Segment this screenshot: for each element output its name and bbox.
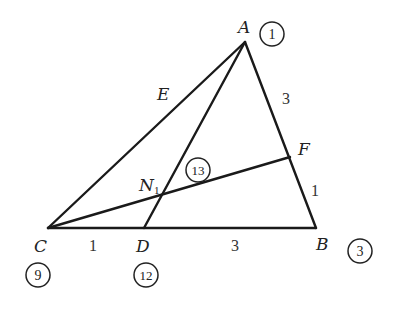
label-B: B [315, 234, 329, 254]
length-CD: 1 [89, 237, 97, 254]
length-AF: 3 [282, 90, 290, 107]
segment-AB [245, 42, 316, 228]
label-C: C [34, 236, 47, 256]
label-A: A [236, 17, 250, 37]
circled-number-B: 3 [357, 244, 364, 259]
circled-number-A: 1 [269, 27, 276, 42]
circled-number-D: 12 [140, 268, 153, 283]
circled-number-C: 9 [35, 268, 42, 283]
label-F: F [297, 139, 311, 159]
circled-number-N: 13 [192, 163, 205, 178]
label-E: E [156, 84, 170, 104]
segment-AD [144, 42, 245, 228]
geometry-diagram: A B C D E F N1 1 3 3 1 1 3 9 12 13 [0, 0, 403, 315]
label-D: D [135, 236, 150, 256]
length-DB: 3 [231, 237, 239, 254]
length-FB: 1 [311, 182, 319, 199]
label-N: N1 [138, 175, 159, 196]
